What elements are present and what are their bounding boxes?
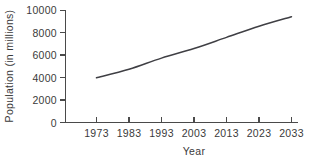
y-tick-label-8000: 8000 xyxy=(32,27,57,39)
y-tick-label-10000: 10000 xyxy=(26,4,57,16)
y-tick-label-6000: 6000 xyxy=(32,49,57,61)
x-tick-label-2033: 2033 xyxy=(279,127,304,139)
y-tick-label-2000: 2000 xyxy=(32,94,57,106)
x-tick-label-2023: 2023 xyxy=(247,127,272,139)
population-line-chart: 10000 8000 6000 4000 2000 0 1973 1983 19… xyxy=(0,0,310,164)
y-tick-label-4000: 4000 xyxy=(32,72,57,84)
y-axis-title: Population (in millions) xyxy=(3,10,15,123)
x-tick-label-1973: 1973 xyxy=(84,127,109,139)
x-axis-title: Year xyxy=(183,145,206,157)
population-curve xyxy=(97,17,292,78)
y-tick-label-0: 0 xyxy=(51,117,57,129)
x-tick-label-1983: 1983 xyxy=(117,127,142,139)
chart-canvas: 10000 8000 6000 4000 2000 0 1973 1983 19… xyxy=(0,0,310,164)
x-tick-label-2013: 2013 xyxy=(214,127,239,139)
x-tick-label-2003: 2003 xyxy=(182,127,207,139)
x-tick-label-1993: 1993 xyxy=(149,127,174,139)
